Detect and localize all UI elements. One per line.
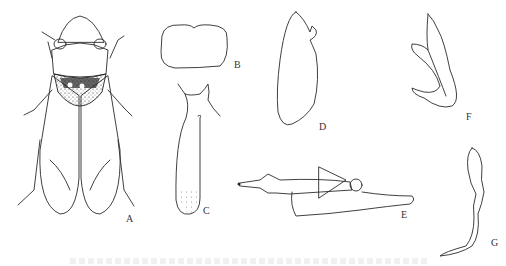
panel-label-a: A	[126, 214, 133, 224]
insect-habitus-illustration	[18, 16, 134, 214]
panel-b-outline	[161, 25, 227, 68]
panel-g-process	[440, 148, 484, 256]
figure-canvas	[0, 0, 506, 266]
bleed-through-text	[70, 258, 430, 264]
panel-d-outline	[277, 12, 317, 125]
panel-label-c: C	[203, 206, 210, 216]
panel-label-g: G	[491, 238, 498, 248]
panel-label-b: B	[234, 60, 241, 70]
panel-label-f: F	[466, 112, 472, 122]
panel-label-e: E	[401, 210, 407, 220]
panel-e-aedeagus	[238, 167, 414, 216]
panel-f-style	[412, 14, 457, 107]
panel-label-d: D	[319, 122, 326, 132]
panel-c-outline	[176, 84, 220, 214]
